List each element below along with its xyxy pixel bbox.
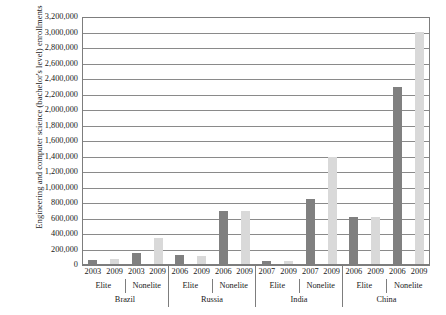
x-group-country-label: Brazil [82,293,169,307]
x-tick-year: 2003 [126,265,148,279]
enrollments-bar-chart: Engineering and computer science (bachel… [0,0,446,315]
y-tick-label: 2,200,000 [14,91,78,99]
x-group-tier-label: Nonelite [126,279,170,293]
x-group-tier-label: Elite [82,279,126,293]
x-tick-year: 2009 [321,265,343,279]
x-group-tier-label: Elite [256,279,300,293]
x-group-country-label: India [256,293,343,307]
x-tick-year: 2006 [169,265,191,279]
x-group-tier-label: Nonelite [387,279,431,293]
y-tick-label: 2,800,000 [14,44,78,52]
y-tick-label: 1,400,000 [14,153,78,161]
y-tick-label: 1,200,000 [14,168,78,176]
y-tick-label: 3,200,000 [14,13,78,21]
x-tick-year: 2006 [343,265,365,279]
plot-border [82,17,430,265]
y-tick-label: 2,400,000 [14,75,78,83]
y-tick-label: 0 [14,261,78,269]
x-axis-year-row: 2003200920032009200620092006200920072009… [82,265,430,279]
x-tick-year: 2009 [147,265,169,279]
y-tick-label: 1,000,000 [14,184,78,192]
y-tick-label: 1,800,000 [14,122,78,130]
y-axis-tick-labels: 3,200,0003,000,0002,800,0002,600,0002,40… [12,17,78,265]
x-tick-year: 2009 [104,265,126,279]
x-tick-year: 2009 [278,265,300,279]
y-tick-label: 800,000 [14,199,78,207]
y-tick-label: 1,600,000 [14,137,78,145]
x-tick-year: 2007 [300,265,322,279]
x-tick-year: 2009 [234,265,256,279]
x-tick-year: 2009 [408,265,430,279]
x-axis-country-row: BrazilRussiaIndiaChina [82,293,430,307]
x-group-country-label: China [343,293,430,307]
x-tick-year: 2003 [82,265,104,279]
y-tick-label: 3,000,000 [14,29,78,37]
x-tick-year: 2009 [365,265,387,279]
x-axis-tier-row: EliteNoneliteEliteNoneliteEliteNoneliteE… [82,279,430,293]
x-group-tier-label: Nonelite [300,279,344,293]
x-tick-year: 2006 [387,265,409,279]
x-axis-labels: 2003200920032009200620092006200920072009… [82,265,430,313]
y-tick-label: 400,000 [14,230,78,238]
plot-area [82,17,430,265]
x-group-tier-label: Elite [343,279,387,293]
x-group-tier-label: Nonelite [213,279,257,293]
x-tick-year: 2009 [191,265,213,279]
x-tick-year: 2007 [256,265,278,279]
y-tick-label: 600,000 [14,215,78,223]
x-tick-year: 2006 [213,265,235,279]
x-group-tier-label: Elite [169,279,213,293]
y-tick-label: 2,000,000 [14,106,78,114]
y-tick-label: 2,600,000 [14,60,78,68]
x-group-country-label: Russia [169,293,256,307]
y-tick-label: 200,000 [14,246,78,254]
